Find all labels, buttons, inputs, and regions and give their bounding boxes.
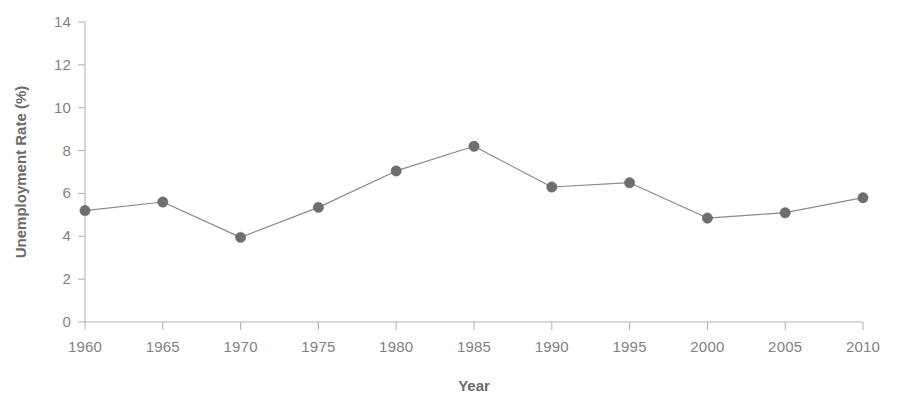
x-tick-label: 2000 (690, 338, 724, 355)
data-point-marker (80, 205, 90, 215)
x-tick-label: 1985 (457, 338, 491, 355)
data-point-marker (547, 182, 557, 192)
data-point-marker (702, 213, 712, 223)
y-axis-title: Unemployment Rate (%) (12, 86, 29, 259)
data-point-marker (858, 193, 868, 203)
data-point-marker (158, 197, 168, 207)
x-tick-label: 1990 (535, 338, 569, 355)
data-point-marker (624, 178, 634, 188)
x-tick-label: 1960 (68, 338, 102, 355)
y-tick-label: 12 (54, 56, 71, 73)
line-chart: 02468101214 1960196519701975198019851990… (0, 0, 900, 407)
y-tick-label: 10 (54, 99, 71, 116)
chart-figure: 02468101214 1960196519701975198019851990… (0, 0, 900, 407)
data-point-marker (313, 202, 323, 212)
chart-background (0, 0, 900, 407)
y-tick-label: 14 (54, 13, 71, 30)
data-point-marker (469, 141, 479, 151)
data-point-marker (780, 208, 790, 218)
x-tick-label: 2010 (846, 338, 880, 355)
data-point-marker (391, 166, 401, 176)
x-tick-label: 1965 (146, 338, 180, 355)
x-tick-label: 2005 (768, 338, 802, 355)
x-tick-label: 1995 (613, 338, 647, 355)
x-tick-label: 1980 (379, 338, 413, 355)
y-tick-label: 4 (62, 227, 71, 244)
x-tick-label: 1975 (301, 338, 335, 355)
y-tick-label: 8 (62, 142, 71, 159)
y-tick-label: 2 (62, 270, 71, 287)
x-axis-title: Year (458, 377, 490, 394)
data-point-marker (235, 232, 245, 242)
x-tick-label: 1970 (224, 338, 258, 355)
y-tick-label: 6 (62, 184, 71, 201)
y-tick-label: 0 (62, 313, 71, 330)
